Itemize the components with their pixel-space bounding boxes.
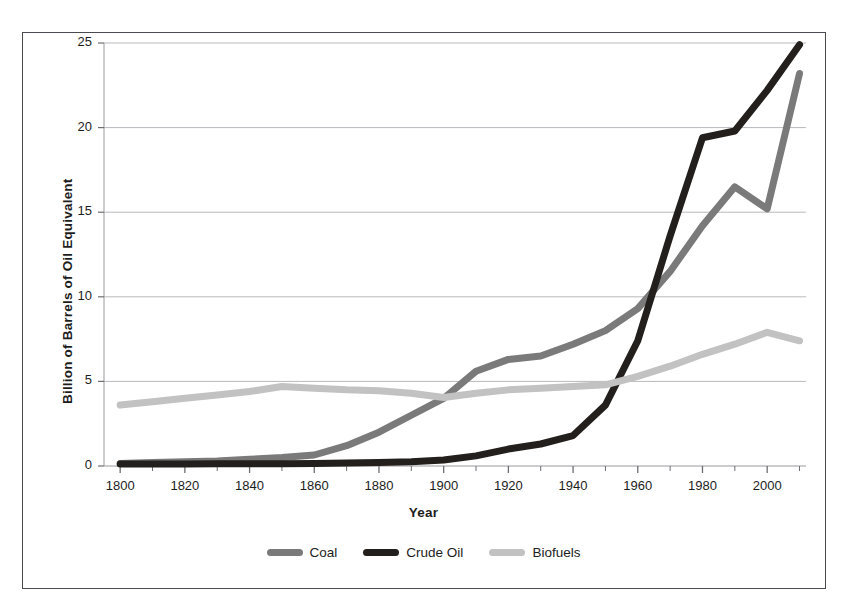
y-axis-title: Billion of Barrels of Oil Equivalent	[60, 179, 75, 404]
y-axis-ticks	[98, 43, 104, 466]
legend-label-coal: Coal	[310, 545, 338, 560]
chart-plot-area	[23, 33, 824, 587]
legend-item-crude-oil[interactable]: Crude Oil	[363, 545, 463, 560]
x-tick-label: 1880	[349, 478, 409, 493]
gridlines	[104, 43, 806, 381]
legend-label-crude-oil: Crude Oil	[406, 545, 463, 560]
x-tick-label: 1860	[284, 478, 344, 493]
x-tick-label: 1960	[608, 478, 668, 493]
series-line-coal	[120, 73, 799, 463]
x-tick-label: 1980	[672, 478, 732, 493]
legend-item-biofuels[interactable]: Biofuels	[489, 545, 580, 560]
legend-swatch-coal	[267, 549, 303, 556]
series-line-biofuels	[120, 332, 799, 405]
y-tick-label: 25	[52, 34, 92, 49]
chart-figure: 0510152025 18001820184018601880190019201…	[0, 0, 847, 609]
chart-legend: Coal Crude Oil Biofuels	[0, 545, 847, 560]
x-tick-label: 1840	[220, 478, 280, 493]
x-tick-label: 1920	[478, 478, 538, 493]
legend-item-coal[interactable]: Coal	[267, 545, 338, 560]
y-tick-label: 0	[52, 457, 92, 472]
series-line-crude-oil	[120, 45, 799, 464]
x-tick-label: 2000	[737, 478, 797, 493]
x-axis-title: Year	[0, 505, 847, 520]
axis-lines	[104, 43, 806, 466]
legend-swatch-biofuels	[489, 549, 525, 556]
x-tick-label: 1940	[543, 478, 603, 493]
legend-swatch-crude-oil	[363, 549, 399, 556]
x-tick-label: 1900	[414, 478, 474, 493]
data-series-group	[120, 45, 799, 464]
x-tick-label: 1820	[155, 478, 215, 493]
x-tick-label: 1800	[90, 478, 150, 493]
legend-label-biofuels: Biofuels	[532, 545, 580, 560]
y-tick-label: 20	[52, 119, 92, 134]
